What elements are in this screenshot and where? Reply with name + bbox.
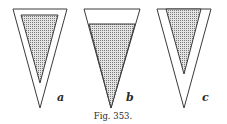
label-a: a <box>57 91 64 104</box>
figure-caption: Fig. 353. <box>94 111 132 121</box>
panel-a: a <box>13 9 67 108</box>
panel-b: b <box>84 9 140 108</box>
label-b: b <box>126 91 134 104</box>
figure-canvas: a b c Fig. 353. <box>0 0 227 124</box>
panel-c: c <box>157 9 211 108</box>
label-c: c <box>202 91 209 104</box>
